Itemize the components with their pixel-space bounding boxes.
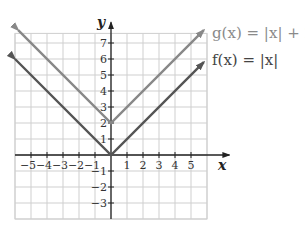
x-tick-label: 2 xyxy=(140,159,147,172)
y-axis-label: y xyxy=(96,14,106,30)
x-tick-label: −5 xyxy=(20,159,36,172)
x-tick-label: −4 xyxy=(36,159,52,172)
y-tick-label: 5 xyxy=(100,69,107,82)
y-tick-label: −1 xyxy=(91,165,107,178)
x-tick-label: −3 xyxy=(52,159,68,172)
x-tick-label: −2 xyxy=(68,159,84,172)
y-tick-label: 6 xyxy=(100,53,107,66)
y-tick-label: 7 xyxy=(100,37,107,50)
y-tick-label: 4 xyxy=(100,85,107,98)
x-tick-label: 3 xyxy=(156,159,163,172)
x-tick-label: 5 xyxy=(188,159,195,172)
y-tick-label: −3 xyxy=(91,197,107,210)
y-tick-label: −2 xyxy=(91,181,107,194)
x-tick-label: 1 xyxy=(124,159,131,172)
x-axis-label: x xyxy=(217,157,227,173)
f-function-label: f(x) = |x| xyxy=(212,51,278,69)
g-function-label: g(x) = |x| + 2 xyxy=(212,24,305,42)
x-tick-label: 4 xyxy=(172,159,179,172)
